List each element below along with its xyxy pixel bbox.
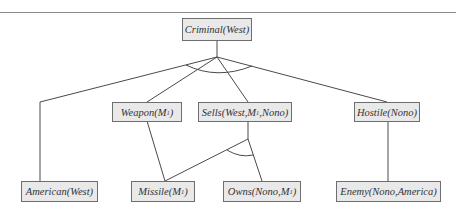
node-weapon: Weapon(M1) bbox=[112, 102, 182, 122]
node-enemy: Enemy(Nono,America) bbox=[336, 181, 441, 202]
node-sells-label-tail: ,Nono) bbox=[259, 107, 288, 118]
edge-criminal-hostile bbox=[217, 57, 387, 102]
node-american-label: American(West) bbox=[26, 186, 93, 197]
node-owns-label-tail: ) bbox=[293, 186, 297, 197]
node-criminal: Criminal(West) bbox=[182, 18, 252, 41]
edge-sells-owns bbox=[248, 139, 262, 181]
edge-weapon-missile bbox=[147, 121, 165, 181]
edge-criminal-weapon bbox=[147, 57, 217, 102]
node-enemy-label: Enemy(Nono,America) bbox=[340, 186, 437, 197]
node-sells-label: Sells(West,M bbox=[202, 107, 256, 118]
node-hostile-label: Hostile(Nono) bbox=[357, 107, 417, 118]
edge-sells-missile bbox=[165, 139, 248, 181]
and-arc-criminal bbox=[186, 65, 252, 73]
node-weapon-label: Weapon(M bbox=[121, 107, 167, 118]
edge-criminal-american bbox=[40, 57, 217, 102]
node-hostile: Hostile(Nono) bbox=[354, 102, 420, 122]
node-sells: Sells(West,M1,Nono) bbox=[198, 102, 292, 122]
node-missile: Missile(M1) bbox=[131, 181, 195, 202]
node-criminal-label: Criminal(West) bbox=[185, 24, 249, 35]
node-weapon-label-tail: ) bbox=[170, 107, 174, 118]
and-arc-sells bbox=[227, 150, 253, 156]
node-missile-label: Missile(M bbox=[138, 186, 181, 197]
node-american: American(West) bbox=[21, 181, 98, 202]
proof-tree-diagram: Criminal(West) Weapon(M1) Sells(West,M1,… bbox=[0, 0, 456, 214]
node-owns-label: Owns(Nono,M bbox=[228, 186, 290, 197]
node-missile-label-tail: ) bbox=[184, 186, 188, 197]
node-owns: Owns(Nono,M1) bbox=[223, 181, 301, 202]
